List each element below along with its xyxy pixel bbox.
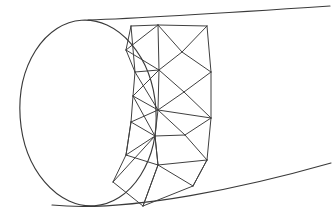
tube-mesh-drawing [0, 0, 334, 224]
figure-canvas: Line drawing of an open-ended tube or cy… [0, 0, 334, 224]
